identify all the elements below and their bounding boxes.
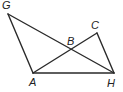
- label-G: G: [2, 0, 11, 11]
- segment-AC: [33, 33, 97, 73]
- label-C: C: [91, 19, 99, 31]
- segment-CH: [97, 33, 114, 73]
- label-H: H: [107, 77, 115, 89]
- label-A: A: [28, 76, 36, 88]
- geometry-diagram: G A H C B: [0, 0, 123, 92]
- label-B: B: [67, 35, 74, 47]
- segment-GA: [8, 14, 33, 73]
